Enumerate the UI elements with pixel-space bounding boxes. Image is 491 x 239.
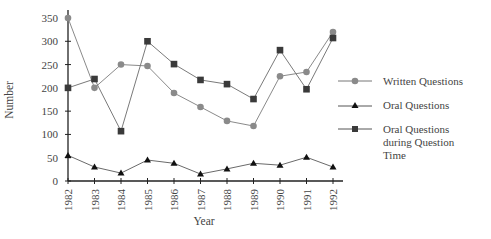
data-point-circle — [277, 73, 284, 80]
x-tick-label: 1983 — [89, 189, 101, 212]
y-tick-label: 150 — [42, 105, 59, 117]
x-axis-title: Year — [193, 215, 214, 227]
x-tick-label: 1982 — [62, 189, 74, 211]
x-tick-label: 1992 — [327, 189, 339, 211]
x-tick-label: 1987 — [195, 189, 207, 212]
data-point-circle — [144, 63, 151, 70]
triangle-marker-icon — [338, 99, 372, 111]
y-axis-ticks: 050100150200250300350 — [42, 12, 72, 187]
y-tick-label: 100 — [42, 128, 59, 140]
data-point-square — [91, 76, 98, 83]
legend-item-oral-questions: Oral Questions — [338, 99, 491, 121]
data-point-square — [144, 38, 151, 45]
x-tick-label: 1989 — [248, 189, 260, 212]
data-point-square — [303, 86, 310, 93]
legend-label: Oral Questions — [383, 99, 449, 112]
data-point-circle — [171, 90, 178, 97]
legend-label-line: during Question — [383, 136, 454, 148]
y-tick-label: 300 — [42, 35, 59, 47]
data-point-square — [224, 81, 231, 88]
y-tick-label: 50 — [47, 152, 59, 164]
circle-marker-icon — [338, 75, 372, 87]
data-point-circle — [303, 69, 310, 76]
data-point-circle — [197, 104, 204, 111]
legend-label-line: Oral Questions — [383, 123, 449, 135]
series-square — [65, 35, 337, 135]
data-point-square — [197, 77, 204, 84]
y-tick-label: 200 — [42, 82, 59, 94]
x-tick-label: 1988 — [221, 189, 233, 212]
data-point-circle — [65, 15, 72, 22]
data-point-square — [250, 96, 257, 103]
data-point-circle — [330, 29, 337, 36]
legend-label: Oral Questions during Question Time — [383, 123, 454, 162]
legend-item-written-questions: Written Questions — [338, 75, 491, 97]
data-point-triangle — [65, 152, 72, 158]
x-tick-label: 1984 — [115, 189, 127, 212]
series-triangle — [65, 152, 337, 177]
data-point-circle — [91, 85, 98, 92]
square-marker-icon — [338, 123, 372, 135]
y-axis-title: Number — [3, 81, 15, 119]
data-point-triangle — [144, 157, 151, 163]
data-series — [65, 15, 337, 177]
series-circle — [65, 15, 337, 130]
legend: Written Questions Oral Questions Oral Qu… — [338, 75, 491, 163]
legend-item-oral-questions-question-time: Oral Questions during Question Time — [338, 123, 491, 167]
data-point-triangle — [91, 164, 98, 170]
data-point-square — [330, 35, 337, 42]
x-tick-label: 1985 — [142, 189, 154, 212]
x-tick-label: 1986 — [168, 189, 180, 212]
x-tick-label: 1990 — [274, 189, 286, 212]
data-point-square — [277, 47, 284, 54]
x-tick-label: 1991 — [301, 189, 313, 211]
y-tick-label: 250 — [42, 59, 59, 71]
x-axis-ticks: 1982198319841985198619871988198919901991… — [62, 178, 339, 211]
axes — [68, 10, 343, 181]
data-point-circle — [118, 61, 125, 68]
data-point-triangle — [250, 160, 257, 166]
data-point-triangle — [303, 154, 310, 160]
y-tick-label: 0 — [53, 175, 59, 187]
legend-label: Written Questions — [383, 75, 463, 88]
data-point-circle — [250, 123, 257, 130]
data-point-circle — [224, 118, 231, 125]
y-tick-label: 350 — [42, 12, 59, 24]
legend-label-line: Time — [383, 149, 406, 161]
data-point-square — [171, 61, 178, 68]
data-point-square — [118, 128, 125, 135]
data-point-square — [65, 85, 72, 92]
